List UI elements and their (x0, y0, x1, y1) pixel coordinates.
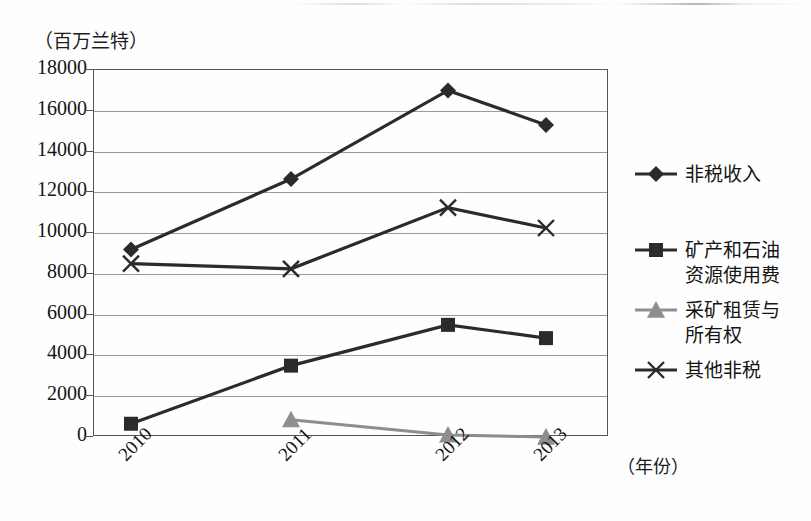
y-axis-tick-label: 14000 (0, 138, 87, 161)
y-axis-unit-label: （百万兰特） (34, 26, 148, 53)
y-axis-tick-mark (85, 110, 93, 111)
y-axis-tick-mark (85, 69, 93, 70)
legend-item-label: 矿产和石油 资源使用费 (685, 238, 780, 288)
y-axis-tick-label: 18000 (0, 56, 87, 79)
y-axis-tick-label: 6000 (0, 301, 87, 324)
scan-artifact (0, 3, 811, 5)
y-axis-tick-label: 16000 (0, 97, 87, 120)
y-axis-tick-mark (85, 395, 93, 396)
series-line (131, 325, 546, 424)
y-axis-tick-mark (85, 191, 93, 192)
diamond-data-point (283, 171, 299, 187)
y-axis-tick-label: 0 (0, 423, 87, 446)
square-data-point (441, 318, 455, 332)
y-axis-tick-label: 4000 (0, 341, 87, 364)
y-axis-tick-mark (85, 354, 93, 355)
y-axis-tick-label: 12000 (0, 178, 87, 201)
x-axis-label: （年份） (617, 452, 689, 478)
legend-item: 非税收入 (633, 162, 761, 187)
y-axis-tick-mark (85, 436, 93, 437)
square-marker-icon (633, 239, 679, 261)
y-axis-tick-label: 2000 (0, 382, 87, 405)
legend-item: 其他非税 (633, 358, 761, 383)
diamond-data-point (648, 166, 664, 182)
y-axis-tick-label: 8000 (0, 260, 87, 283)
diamond-data-point (123, 241, 139, 257)
y-axis-tick-mark (85, 314, 93, 315)
legend-item: 采矿租赁与 所有权 (633, 298, 780, 348)
legend-item-label: 其他非税 (685, 358, 761, 383)
square-data-point (649, 243, 663, 257)
diamond-data-point (538, 117, 554, 133)
square-data-point (284, 359, 298, 373)
series-layer (94, 70, 609, 437)
series-line (291, 420, 546, 437)
diamond-marker-icon (633, 163, 679, 185)
series-line (131, 208, 546, 269)
x-marker-icon (633, 359, 679, 381)
diamond-data-point (440, 82, 456, 98)
chart-page: （百万兰特） 180001600014000120001000080006000… (0, 0, 811, 521)
legend-item-label: 非税收入 (685, 162, 761, 187)
legend-item: 矿产和石油 资源使用费 (633, 238, 780, 288)
legend-item-label: 采矿租赁与 所有权 (685, 298, 780, 348)
y-axis-tick-mark (85, 273, 93, 274)
y-axis-tick-mark (85, 232, 93, 233)
y-axis-tick-mark (85, 151, 93, 152)
series-line (131, 90, 546, 249)
square-data-point (539, 331, 553, 345)
y-axis-tick-label: 10000 (0, 219, 87, 242)
triangle-marker-icon (633, 299, 679, 321)
plot-area (93, 69, 608, 436)
